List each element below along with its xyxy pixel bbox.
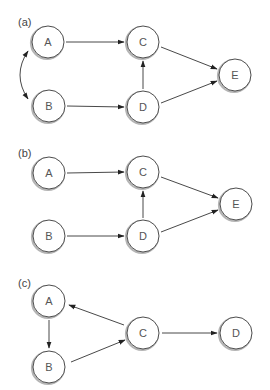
panel-label-a: (a) <box>18 16 31 28</box>
node-a-E: E <box>218 59 251 92</box>
edge-c-B-to-C <box>71 340 125 362</box>
svg-text:E: E <box>231 69 238 81</box>
node-b-B: B <box>32 220 65 253</box>
svg-text:B: B <box>45 100 52 112</box>
node-b-E: E <box>219 188 252 221</box>
panel-c: (c) A B C D <box>18 277 252 384</box>
svg-text:C: C <box>139 327 147 339</box>
svg-text:C: C <box>139 36 147 48</box>
svg-text:D: D <box>139 101 147 113</box>
edge-b-C-to-E <box>161 177 218 198</box>
svg-text:B: B <box>45 361 52 373</box>
node-c-D: D <box>219 317 252 350</box>
svg-text:D: D <box>232 327 240 339</box>
panel-a: (a) A B C D E <box>18 16 251 124</box>
edge-b-D-to-E <box>161 210 218 232</box>
edge-a-D-to-E <box>161 81 217 103</box>
svg-text:A: A <box>44 36 52 48</box>
node-c-A: A <box>32 285 65 318</box>
svg-text:A: A <box>45 167 53 179</box>
causal-graph-figure: (a) A B C D E <box>0 0 270 390</box>
svg-text:B: B <box>45 230 52 242</box>
svg-text:E: E <box>232 198 239 210</box>
panel-label-c: (c) <box>18 277 31 289</box>
edge-c-C-to-A <box>69 305 124 325</box>
node-a-A: A <box>31 26 64 59</box>
edge-a-C-to-E <box>161 47 217 69</box>
svg-text:D: D <box>139 230 147 242</box>
node-b-C: C <box>126 156 159 189</box>
edge-b-A-to-C <box>67 172 124 173</box>
svg-text:C: C <box>139 166 147 178</box>
edge-a-B-to-D <box>67 106 124 107</box>
node-b-D: D <box>126 220 159 253</box>
node-a-B: B <box>32 90 65 123</box>
node-c-B: B <box>32 351 65 384</box>
node-a-C: C <box>126 26 159 59</box>
panel-label-b: (b) <box>18 147 31 159</box>
edge-a-A-B-bidirected <box>20 51 28 99</box>
node-a-D: D <box>126 91 159 124</box>
node-c-C: C <box>126 317 159 350</box>
panel-b: (b) A B C D E <box>18 147 252 253</box>
node-b-A: A <box>32 157 65 190</box>
svg-text:A: A <box>45 295 53 307</box>
